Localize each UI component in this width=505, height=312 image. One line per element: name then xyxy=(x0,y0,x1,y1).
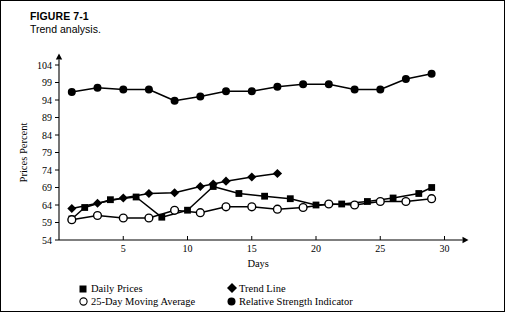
data-point xyxy=(273,169,282,178)
data-point xyxy=(428,184,435,191)
data-point xyxy=(144,189,153,198)
data-point xyxy=(274,205,282,213)
data-point xyxy=(145,214,153,222)
data-point xyxy=(196,182,205,191)
data-point xyxy=(325,80,333,88)
data-point xyxy=(390,195,397,202)
data-point xyxy=(221,177,230,186)
legend-row: Daily Prices Trend Line xyxy=(79,282,353,295)
legend-row: 25-Day Moving Average Relative Strength … xyxy=(79,295,353,308)
data-point xyxy=(67,204,76,213)
data-point xyxy=(376,198,384,206)
x-tick-label: 30 xyxy=(440,243,450,254)
data-point xyxy=(170,188,179,197)
x-tick-label: 5 xyxy=(121,243,126,254)
legend-item-rsi: Relative Strength Indicator xyxy=(227,295,353,308)
data-point xyxy=(351,86,359,94)
y-axis-label: Prices Percent xyxy=(18,123,29,183)
data-point xyxy=(171,97,179,105)
data-point xyxy=(428,195,436,203)
data-point xyxy=(94,84,102,92)
y-tick-label: 59 xyxy=(42,217,52,228)
x-tick-label: 25 xyxy=(375,243,385,254)
data-point xyxy=(196,209,204,217)
data-point xyxy=(248,203,256,211)
data-point xyxy=(299,80,307,88)
data-point xyxy=(261,193,268,200)
data-point xyxy=(299,204,307,212)
y-tick-label: 104 xyxy=(37,60,52,71)
data-point xyxy=(351,201,359,209)
filled-diamond-icon xyxy=(227,282,239,295)
data-point xyxy=(145,86,153,94)
y-tick-label: 89 xyxy=(42,112,52,123)
y-tick-label: 64 xyxy=(42,200,52,211)
data-point xyxy=(171,206,179,214)
series-relative-strength-indicator xyxy=(68,70,436,105)
data-point xyxy=(325,200,333,208)
data-point xyxy=(402,75,410,83)
data-point xyxy=(402,198,410,206)
data-point xyxy=(428,70,436,78)
data-point xyxy=(119,86,127,94)
data-point xyxy=(376,86,384,94)
x-tick-label: 15 xyxy=(247,243,257,254)
data-point xyxy=(273,83,281,91)
data-point xyxy=(248,87,256,95)
y-tick-label: 74 xyxy=(42,165,52,176)
data-point xyxy=(119,214,127,222)
y-tick-label: 99 xyxy=(42,77,52,88)
legend-label: Trend Line xyxy=(239,283,286,294)
y-tick-label: 94 xyxy=(42,95,52,106)
data-point xyxy=(68,88,76,96)
data-point xyxy=(94,212,102,220)
data-point xyxy=(415,190,422,197)
legend-item-daily-prices: Daily Prices xyxy=(79,282,227,295)
data-point xyxy=(119,193,128,202)
data-point xyxy=(196,93,204,101)
legend-item-moving-average: 25-Day Moving Average xyxy=(79,295,227,308)
filled-circle-icon xyxy=(227,295,239,308)
x-axis-label: Days xyxy=(247,258,269,269)
legend-item-trend-line: Trend Line xyxy=(227,282,286,295)
data-point xyxy=(287,195,294,202)
x-tick-label: 20 xyxy=(311,243,321,254)
legend-label: Daily Prices xyxy=(91,283,143,294)
data-point xyxy=(68,216,76,224)
data-point xyxy=(222,87,230,95)
data-point xyxy=(184,207,191,214)
data-point xyxy=(247,172,256,181)
filled-square-icon xyxy=(79,282,91,295)
x-axis-arrow xyxy=(462,237,468,243)
legend-label: 25-Day Moving Average xyxy=(91,296,195,307)
data-point xyxy=(93,199,102,208)
y-axis-arrow xyxy=(56,53,62,59)
chart-legend: Daily Prices Trend Line 25-Day Moving Av… xyxy=(79,282,353,308)
y-tick-label: 79 xyxy=(42,147,52,158)
y-tick-label: 69 xyxy=(42,182,52,193)
x-tick-label: 10 xyxy=(183,243,193,254)
figure-panel: FIGURE 7-1 Trend analysis. 5459646974798… xyxy=(0,0,505,312)
data-point xyxy=(236,190,243,197)
data-point xyxy=(222,203,230,211)
y-tick-label: 84 xyxy=(42,130,52,141)
trend-analysis-chart: 5459646974798489949910451015202530Prices… xyxy=(1,1,505,312)
open-circle-icon xyxy=(79,295,91,308)
legend-label: Relative Strength Indicator xyxy=(239,296,353,307)
y-tick-label: 54 xyxy=(42,235,52,246)
